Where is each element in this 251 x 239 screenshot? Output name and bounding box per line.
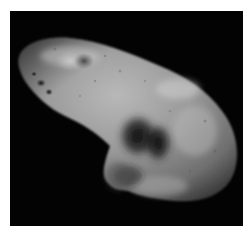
- lower-lobe: [106, 162, 130, 190]
- crater-large: [56, 51, 94, 71]
- asteroid-photo: [10, 11, 243, 226]
- photo-frame: [10, 11, 243, 226]
